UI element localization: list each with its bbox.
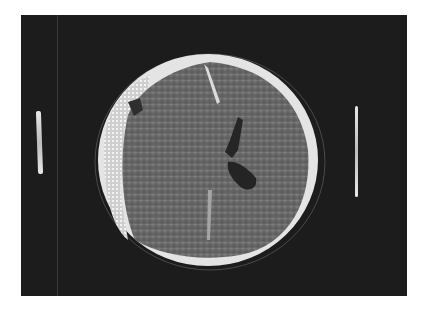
ct-skull-slice [0, 0, 426, 312]
